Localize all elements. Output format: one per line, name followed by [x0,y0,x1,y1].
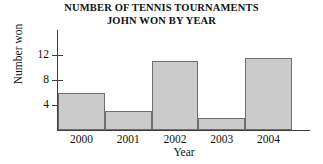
y-tick-label-4: 4 [33,99,49,111]
bar-2003 [198,118,245,131]
chart-title-line-2: JOHN WON BY YEAR [0,15,323,28]
x-tick-label-2001: 2001 [105,133,152,145]
y-tick-label-12: 12 [33,49,49,61]
y-axis-title: Number won [12,16,24,92]
y-tick-label-8: 8 [33,74,49,86]
x-tick-label-2000: 2000 [58,133,105,145]
bar-2000 [58,93,105,131]
plot-area [58,30,310,130]
chart-title: NUMBER OF TENNIS TOURNAMENTS JOHN WON BY… [0,2,323,27]
x-axis-title: Year [58,146,310,158]
tennis-tournaments-bar-chart: NUMBER OF TENNIS TOURNAMENTS JOHN WON BY… [0,0,323,164]
x-axis-line [57,130,310,131]
bar-2004 [245,58,292,130]
bar-2002 [152,61,199,130]
x-tick-label-2002: 2002 [152,133,199,145]
x-tick-label-2003: 2003 [198,133,245,145]
x-tick-label-2004: 2004 [245,133,292,145]
chart-title-line-1: NUMBER OF TENNIS TOURNAMENTS [0,2,323,15]
bar-2001 [105,111,152,130]
